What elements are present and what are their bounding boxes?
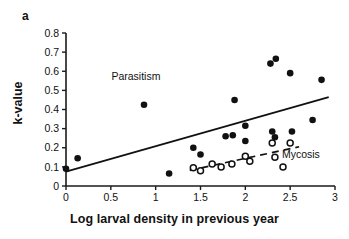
- data-point-mycosis: [190, 165, 196, 171]
- x-axis-label: Log larval density in previous year: [0, 212, 349, 226]
- data-point-mycosis: [272, 154, 278, 160]
- y-tick-label: 0.4: [44, 103, 59, 115]
- regression-line-parasitism: [66, 97, 329, 172]
- data-point-mycosis: [269, 140, 275, 146]
- data-point-parasitism: [231, 97, 238, 104]
- data-point-parasitism: [190, 144, 197, 151]
- x-tick-label: 1.5: [193, 191, 208, 203]
- data-point-parasitism: [269, 128, 276, 135]
- x-tick-label: 3: [332, 191, 338, 203]
- y-tick-label: 0.2: [44, 141, 59, 153]
- data-point-mycosis: [218, 164, 224, 170]
- figure-panel-a: a 00.511.522.5300.10.20.30.40.50.60.70.8…: [0, 0, 349, 239]
- x-tick-label: 2.5: [283, 191, 298, 203]
- data-point-parasitism: [141, 101, 148, 108]
- y-tick-label: 0.7: [44, 46, 59, 58]
- y-tick-label: 0: [53, 180, 59, 192]
- data-point-parasitism: [287, 70, 294, 77]
- data-point-parasitism: [309, 117, 316, 124]
- data-point-mycosis: [198, 168, 204, 174]
- x-tick-label: 1: [153, 191, 159, 203]
- y-tick-label: 0.5: [44, 84, 59, 96]
- data-point-parasitism: [242, 138, 249, 145]
- data-point-parasitism: [222, 133, 229, 140]
- x-tick-label: 2: [242, 191, 248, 203]
- data-point-parasitism: [197, 151, 204, 158]
- data-point-mycosis: [229, 161, 235, 167]
- data-point-parasitism: [318, 77, 325, 84]
- data-point-parasitism: [63, 165, 70, 172]
- x-tick-label: 0: [63, 191, 69, 203]
- data-point-parasitism: [273, 56, 280, 63]
- data-point-parasitism: [267, 60, 274, 67]
- data-point-parasitism: [289, 128, 296, 135]
- scatter-plot: 00.511.522.5300.10.20.30.40.50.60.70.8Pa…: [0, 0, 349, 239]
- series-label-parasitism: Parasitism: [111, 70, 160, 82]
- x-tick-label: 0.5: [104, 191, 119, 203]
- data-point-parasitism: [242, 122, 249, 129]
- y-axis-label: k-value: [11, 63, 25, 143]
- y-tick-label: 0.3: [44, 122, 59, 134]
- y-tick-label: 0.1: [44, 161, 59, 173]
- data-point-parasitism: [166, 170, 173, 177]
- data-point-mycosis: [247, 158, 253, 164]
- y-tick-label: 0.8: [44, 27, 59, 39]
- data-point-parasitism: [229, 132, 236, 139]
- data-point-mycosis: [287, 140, 293, 146]
- data-point-mycosis: [209, 161, 215, 167]
- y-tick-label: 0.6: [44, 65, 59, 77]
- data-point-mycosis: [280, 164, 286, 170]
- series-label-mycosis: Mycosis: [282, 148, 320, 160]
- data-point-parasitism: [74, 155, 81, 162]
